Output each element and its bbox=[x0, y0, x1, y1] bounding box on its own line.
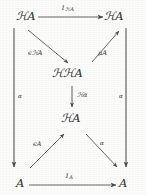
label-top-identity-sub: ℋA bbox=[65, 6, 74, 12]
arrow-alpha-lower-right bbox=[86, 134, 117, 167]
node-center-upper: ℋℋA bbox=[52, 68, 83, 80]
label-alpha-right: α bbox=[119, 94, 123, 100]
label-H-alpha: ℋα bbox=[77, 92, 87, 99]
label-alpha-lower-right: α bbox=[100, 141, 104, 147]
node-bottom-right: A bbox=[119, 178, 128, 190]
diagram-page: ℋA ℋA ℋℋA ℋA A A 1ℋA ϵℋA μA ℋα α α ϵA α … bbox=[0, 0, 146, 195]
label-alpha-left: α bbox=[18, 94, 22, 100]
node-center-lower: ℋA bbox=[61, 113, 81, 125]
node-top-right: ℋA bbox=[104, 11, 124, 23]
label-epsilon-HA: ϵℋA bbox=[28, 50, 42, 57]
node-top-left: ℋA bbox=[16, 11, 36, 23]
label-bottom-identity-sub: A bbox=[69, 174, 73, 180]
label-mu-A: μA bbox=[98, 50, 107, 57]
node-bottom-left: A bbox=[16, 178, 25, 190]
label-epsilon-A: ϵA bbox=[33, 141, 41, 148]
arrow-mu-A bbox=[92, 31, 119, 62]
arrow-epsilon-HA bbox=[28, 30, 68, 63]
label-top-identity: 1ℋA bbox=[61, 5, 74, 12]
label-bottom-identity: 1A bbox=[65, 173, 73, 180]
